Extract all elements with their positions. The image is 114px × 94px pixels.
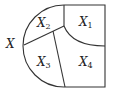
region-label-x3: X3 <box>37 56 51 70</box>
region-label-x4: X4 <box>79 56 93 70</box>
diagram-shapes <box>0 0 114 94</box>
outer-label: X <box>6 38 15 50</box>
divider-x3-x4 <box>53 31 65 87</box>
region-label-x1: X1 <box>79 16 93 30</box>
region-label-x2: X2 <box>37 17 51 31</box>
partition-diagram: X X1 X2 X3 X4 <box>0 0 114 94</box>
